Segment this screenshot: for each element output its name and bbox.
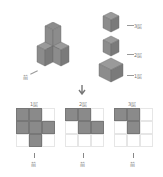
- filled-cell: [114, 108, 127, 121]
- filled-cell: [29, 121, 42, 134]
- filled-cell: [78, 121, 91, 134]
- empty-cell: [140, 108, 153, 121]
- top-view-3-grid: [114, 108, 153, 147]
- layer-1-pointer: [127, 75, 134, 76]
- top-view-3-front-arrow: [133, 153, 134, 158]
- empty-cell: [65, 134, 78, 147]
- empty-cell: [114, 134, 127, 147]
- top-view-1-front-label: 前: [31, 160, 36, 167]
- top-view-1-front-arrow: [34, 153, 35, 158]
- filled-cell: [127, 108, 140, 121]
- empty-cell: [140, 121, 153, 134]
- top-view-3-label: 3层: [128, 100, 136, 107]
- layer-2-label: 2层: [134, 51, 142, 58]
- top-view-2-front-label: 前: [80, 160, 85, 167]
- empty-cell: [140, 134, 153, 147]
- layer-1-label: 1层: [134, 72, 142, 79]
- empty-cell: [42, 134, 55, 147]
- empty-cell: [127, 134, 140, 147]
- empty-cell: [65, 121, 78, 134]
- exploded-layers-figure: [97, 12, 129, 84]
- empty-cell: [91, 108, 104, 121]
- assembled-cube-figure: [35, 22, 71, 70]
- filled-cell: [127, 121, 140, 134]
- filled-cell: [42, 121, 55, 134]
- top-view-2-grid: [65, 108, 104, 147]
- top-view-1-grid: [16, 108, 55, 147]
- layer-3-pointer: [127, 25, 134, 26]
- layer-2-pointer: [127, 54, 134, 55]
- top-view-2-label: 2层: [79, 100, 87, 107]
- filled-cell: [78, 108, 91, 121]
- top-view-3-front-label: 前: [130, 160, 135, 167]
- left-front-label: 前: [23, 73, 28, 80]
- front-pointer-line: [30, 70, 38, 74]
- empty-cell: [16, 134, 29, 147]
- filled-cell: [16, 108, 29, 121]
- top-view-2-front-arrow: [83, 153, 84, 158]
- empty-cell: [42, 108, 55, 121]
- empty-cell: [91, 134, 104, 147]
- empty-cell: [78, 134, 91, 147]
- arrow-down-icon: [78, 85, 86, 95]
- filled-cell: [91, 121, 104, 134]
- filled-cell: [29, 108, 42, 121]
- filled-cell: [16, 121, 29, 134]
- layer-3-label: 3层: [134, 22, 142, 29]
- empty-cell: [114, 121, 127, 134]
- top-view-1-label: 1层: [30, 100, 38, 107]
- filled-cell: [29, 134, 42, 147]
- filled-cell: [65, 108, 78, 121]
